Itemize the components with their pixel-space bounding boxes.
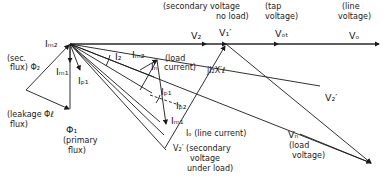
ip2-label: Iₚ₂ [176,101,187,111]
leakage-flux-label-a: (leakage Φℓ [7,111,54,119]
tap-voltage-label-a: (tap [265,3,281,11]
sec-under-load-label-c: under load) [187,165,233,173]
sec-voltage-no-load-label: (secondary voltage [163,3,240,11]
sec-flux-label-a: (sec. [7,55,26,63]
no-load-label: no load) [216,13,249,21]
load-current-label-a: (load [165,55,185,63]
vot-label: Vₒₜ [275,29,288,39]
line-voltage-label-a: (line [342,3,360,11]
v1p-label: V₁′ [219,28,231,38]
v2p-right-label: V₂′ [325,93,337,103]
primary-flux-label-a: (primary [63,137,97,145]
tap-voltage-label-b: voltage) [265,13,298,21]
leakage-flux-vector [26,90,69,109]
sec-under-load-label-b: voltage [190,155,220,163]
ip2-arc [156,95,160,103]
load-voltage-label-b: voltage) [292,152,325,160]
im2-mid-label: Iₘ₂ [132,50,145,60]
im2-origin-label: Iₘ₂ [45,39,58,49]
ji2x-label: jI₂X′ℓ [207,67,225,75]
i2-arc [106,55,110,66]
leakage-flux-label-b: flux) [10,121,28,129]
phi1-label: Φ₁ [66,125,77,135]
phasor-diagram: (secondary voltage no load) (tap voltage… [0,0,389,177]
im1-label: Iₘ₁ [56,67,69,77]
v2p-sec-label: V₂′ (secondary [173,145,231,153]
primary-flux-label-b: flux) [68,147,86,155]
ip1-left-label: Iₚ₁ [78,76,89,86]
sec-flux-label-b: flux) Φ₂ [10,64,40,72]
im1-mid-label: Iₘ₁ [171,116,184,126]
load-current-label-b: current) [164,64,196,72]
io-line-current-label: Iₒ (line current) [186,130,246,138]
ip1-mid-label: Iₚ₁ [161,87,172,97]
i2-label: I₂ [115,52,122,62]
in-label: Iₙ [151,62,158,72]
vn-label: Vₙ [288,130,298,140]
load-voltage-label-a: (load [289,142,309,150]
line-voltage-label-b: voltage) [338,13,371,21]
vo-label: Vₒ [349,31,359,41]
v2-label: V₂ [191,31,201,41]
